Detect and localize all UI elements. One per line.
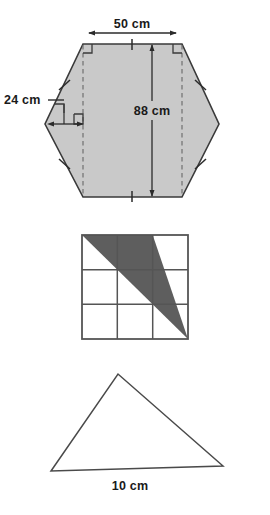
- triangle-shape: [51, 374, 223, 471]
- arrowhead-right-50cm: [170, 31, 177, 36]
- label-24cm: 24 cm: [4, 93, 40, 107]
- triangle-figure: 10 cm: [51, 374, 223, 493]
- hexagon-shape: [45, 44, 219, 197]
- label-50cm: 50 cm: [114, 17, 150, 31]
- label-88cm: 88 cm: [134, 104, 170, 118]
- arrowhead-left-50cm: [88, 31, 95, 36]
- hexagon-figure: 50 cm 88 cm 24 cm: [4, 17, 219, 202]
- grid-figure: [82, 235, 188, 339]
- geometry-figures-canvas: 50 cm 88 cm 24 cm: [0, 0, 270, 515]
- label-10cm: 10 cm: [112, 479, 148, 493]
- dimension-50cm: 50 cm: [88, 17, 177, 36]
- figure-sheet: 50 cm 88 cm 24 cm: [0, 0, 270, 515]
